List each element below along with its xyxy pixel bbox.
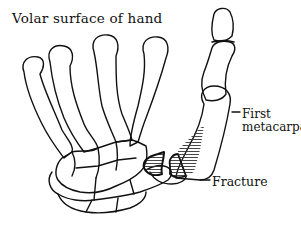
thumb-distal-phalanx [212, 8, 234, 42]
second-metacarpal [130, 37, 168, 146]
fifth-metacarpal [23, 57, 72, 158]
first-metacarpal-label: First metacarpal [242, 108, 301, 134]
fracture-fragments [144, 126, 204, 177]
fracture-label: Fracture [212, 176, 268, 189]
first-metacarpal-label-line2: metacarpal [242, 121, 301, 134]
fourth-metacarpal [49, 46, 98, 152]
thumb-proximal-phalanx [202, 41, 235, 101]
diagram-title: Volar surface of hand [12, 12, 162, 26]
hand-skeleton-diagram: Volar surface of hand First metacarpal F… [0, 0, 301, 244]
third-metacarpal [93, 35, 132, 142]
